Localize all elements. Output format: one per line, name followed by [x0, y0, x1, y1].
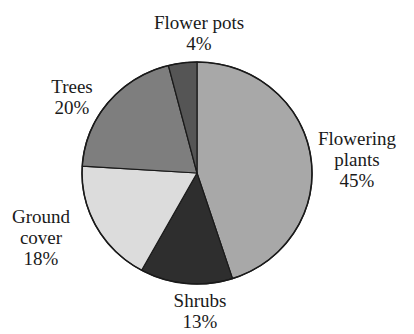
label-trees: Trees 20% [51, 76, 93, 118]
label-flowering-plants-name-2: plants [318, 149, 396, 170]
label-shrubs-value: 13% [174, 311, 227, 332]
label-flower-pots-name: Flower pots [154, 12, 244, 33]
label-flowering-plants: Flowering plants 45% [318, 128, 396, 191]
label-ground-cover-value: 18% [12, 248, 70, 269]
label-flower-pots: Flower pots 4% [154, 12, 244, 54]
label-shrubs-name: Shrubs [174, 290, 227, 311]
label-trees-value: 20% [51, 97, 93, 118]
label-trees-name: Trees [51, 76, 93, 97]
label-flowering-plants-value: 45% [318, 170, 396, 191]
label-ground-cover: Ground cover 18% [12, 206, 70, 269]
label-ground-cover-name-2: cover [12, 227, 70, 248]
label-shrubs: Shrubs 13% [174, 290, 227, 332]
label-ground-cover-name-1: Ground [12, 206, 70, 227]
label-flowering-plants-name-1: Flowering [318, 128, 396, 149]
pie-slices [82, 62, 312, 284]
label-flower-pots-value: 4% [154, 33, 244, 54]
